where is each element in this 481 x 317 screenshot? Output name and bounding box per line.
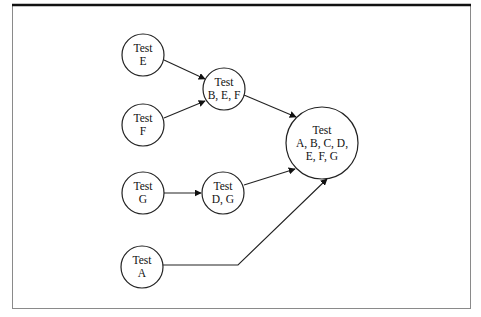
node-label-line: E, F, G [306, 150, 338, 163]
node-test-g: TestG [122, 172, 164, 214]
nodes-layer: TestETestFTestB, E, FTestGTestD, GTestAT… [121, 34, 358, 288]
node-label-line: Test [214, 180, 234, 192]
edge-e-to-bef [164, 60, 205, 79]
node-label-line: F [140, 125, 146, 137]
node-label-line: A, B, C, D, [296, 137, 348, 150]
diagram-canvas: TestETestFTestB, E, FTestGTestD, GTestAT… [0, 0, 481, 317]
node-label-line: A [138, 267, 147, 279]
node-test-dg: TestD, G [202, 172, 244, 214]
node-label-line: Test [133, 254, 153, 266]
node-label-line: B, E, F [208, 89, 241, 102]
figure-frame [13, 6, 471, 309]
node-test-all: TestA, B, C, D,E, F, G [286, 107, 358, 179]
node-label-line: G [139, 193, 147, 205]
node-test-a: TestA [121, 246, 163, 288]
node-label-line: D, G [212, 193, 234, 206]
node-label-line: Test [134, 112, 154, 124]
node-label-line: E [139, 55, 146, 67]
edge-f-to-bef [164, 101, 205, 118]
node-test-bef: TestB, E, F [203, 68, 245, 110]
edge-dg-to-all [244, 169, 295, 185]
node-label-line: Test [134, 42, 154, 54]
node-label-line: Test [215, 76, 235, 88]
diagram-svg: TestETestFTestB, E, FTestGTestD, GTestAT… [0, 0, 481, 317]
node-test-f: TestF [122, 104, 164, 146]
node-label-line: Test [313, 124, 333, 136]
edge-bef-to-all [244, 95, 296, 117]
edge-a-to-all [163, 179, 327, 265]
node-test-e: TestE [122, 34, 164, 76]
node-label-line: Test [134, 180, 154, 192]
